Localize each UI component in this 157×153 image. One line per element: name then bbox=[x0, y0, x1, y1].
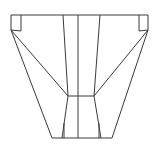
left-tab-diagonal bbox=[11, 30, 21, 31]
column-line-left-outer bbox=[63, 15, 68, 96]
left-lower-diagonal bbox=[62, 96, 68, 138]
column-line-right-inner bbox=[94, 15, 100, 96]
left-outer-edge bbox=[11, 15, 52, 138]
figure-canvas bbox=[0, 0, 157, 153]
right-tab-diagonal bbox=[139, 30, 148, 31]
left-long-diagonal bbox=[11, 30, 68, 96]
right-lower-diagonal bbox=[94, 96, 101, 138]
right-long-diagonal bbox=[94, 30, 148, 96]
line-drawing-svg bbox=[0, 0, 157, 153]
right-outer-edge bbox=[112, 15, 148, 138]
